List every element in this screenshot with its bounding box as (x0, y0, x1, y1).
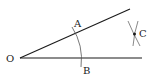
label-a: A (73, 18, 82, 29)
upper-ray (20, 9, 130, 58)
point-c-dot (133, 33, 136, 36)
diagram-canvas: O A B C (0, 0, 159, 82)
label-o: O (6, 53, 14, 64)
angle-bisector-diagram: O A B C (0, 0, 159, 82)
label-c: C (139, 28, 147, 39)
label-b: B (83, 65, 90, 76)
